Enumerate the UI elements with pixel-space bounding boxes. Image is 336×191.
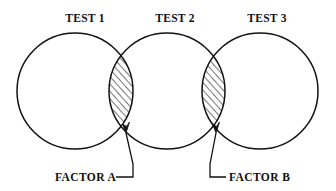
callout-label-factor-a: FACTOR A [55, 171, 117, 183]
set-label-test-3: TEST 3 [247, 12, 287, 24]
callout-label-factor-b: FACTOR B [229, 171, 290, 183]
set-label-test-1: TEST 1 [65, 12, 105, 24]
venn-diagram-canvas: TEST 1 TEST 2 TEST 3 FACTOR A FACTOR B [0, 0, 336, 191]
venn-diagram-figure: TEST 1 TEST 2 TEST 3 FACTOR A FACTOR B [0, 0, 336, 191]
set-label-test-2: TEST 2 [155, 12, 195, 24]
